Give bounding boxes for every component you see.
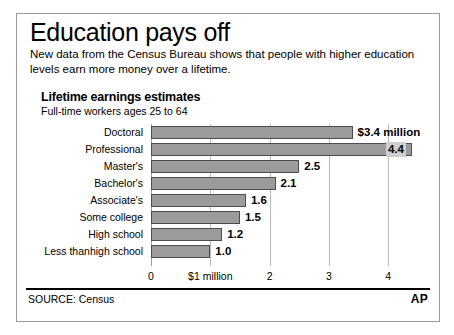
bar-row: Professional4.4 [17, 142, 439, 159]
bar [151, 211, 240, 224]
chart-title: Lifetime earnings estimates [41, 90, 200, 104]
bar [151, 143, 412, 156]
bar-category-label: Master's [17, 159, 143, 174]
bar [151, 228, 222, 241]
bar-value-label: $3.4 million [358, 125, 421, 140]
x-tick-label: 0 [148, 270, 154, 283]
bar-category-label: Some college [17, 210, 143, 225]
source-credit: SOURCE: Census [28, 293, 114, 305]
bar-value-label: 2.5 [304, 159, 320, 174]
bar-value-label: 1.0 [215, 244, 231, 259]
bar-row: High school1.2 [17, 227, 439, 244]
x-tick-label: 4 [385, 270, 391, 283]
bar-row: Associate's1.6 [17, 193, 439, 210]
headline: Education pays off [30, 17, 230, 47]
bar-category-label: Less thanhigh school [17, 244, 143, 259]
bar-row: Less thanhigh school1.0 [17, 244, 439, 261]
deck-text: New data from the Census Bureau shows th… [30, 47, 422, 76]
chart-subtitle: Full-time workers ages 25 to 64 [41, 105, 187, 117]
bar-row: Master's2.5 [17, 159, 439, 176]
bar-value-label: 1.6 [251, 193, 267, 208]
ap-logo: AP [411, 292, 428, 306]
bar-value-label: 4.4 [386, 142, 406, 157]
bar-row: Bachelor's2.1 [17, 176, 439, 193]
bar-row: Doctoral$3.4 million [17, 125, 439, 142]
bar-category-label: Bachelor's [17, 176, 143, 191]
ap-graphic-frame: Education pays off New data from the Cen… [16, 13, 440, 322]
bar [151, 177, 276, 190]
x-tick-label: $1 million [188, 270, 232, 283]
bar-category-label: Associate's [17, 193, 143, 208]
bar-category-label: Doctoral [17, 125, 143, 140]
bar [151, 194, 246, 207]
x-tick-label: 2 [267, 270, 273, 283]
bar [151, 126, 353, 139]
bar-value-label: 2.1 [281, 176, 297, 191]
bar-row: Some college1.5 [17, 210, 439, 227]
bar-category-label: High school [17, 227, 143, 242]
bar [151, 160, 299, 173]
bar-chart-plot: Doctoral$3.4 millionProfessional4.4Maste… [17, 124, 439, 274]
bar-value-label: 1.2 [227, 227, 243, 242]
x-tick-label: 3 [326, 270, 332, 283]
bar-value-label: 1.5 [245, 210, 261, 225]
footer-rule [26, 288, 430, 290]
bar-category-label: Professional [17, 142, 143, 157]
graphic-inner: Education pays off New data from the Cen… [17, 14, 439, 321]
bar [151, 245, 210, 258]
